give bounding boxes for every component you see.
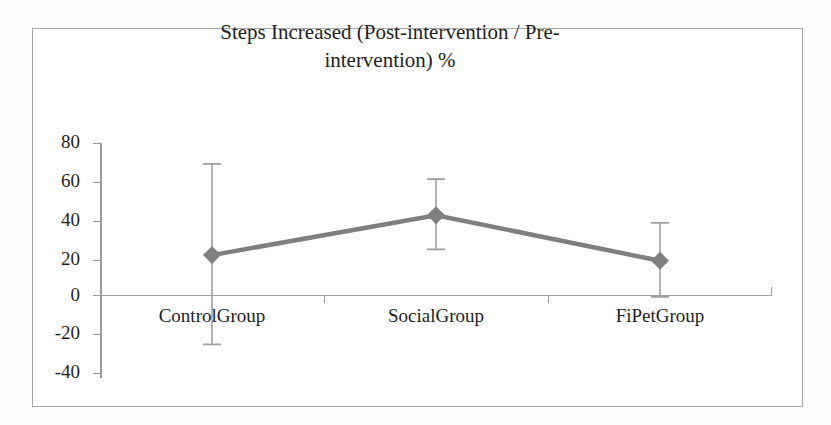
chart-title-line-1: Steps Increased (Post-intervention / Pre…: [120, 18, 660, 46]
chart-title: Steps Increased (Post-intervention / Pre…: [120, 18, 660, 74]
page-background: Steps Increased (Post-intervention / Pre…: [0, 0, 831, 425]
chart-frame: [32, 28, 803, 407]
chart-title-line-2: intervention) %: [120, 46, 660, 74]
